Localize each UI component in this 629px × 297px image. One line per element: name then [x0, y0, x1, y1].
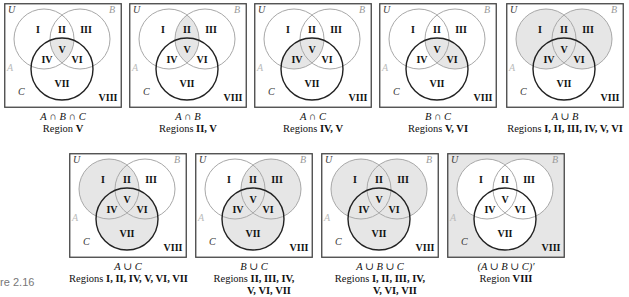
set-a-label: A	[381, 62, 389, 73]
region-label-vii: VII	[556, 78, 571, 89]
region-label-ii: II	[123, 174, 131, 185]
set-b-label: B	[611, 4, 617, 15]
figure-label: ure 2.16	[0, 276, 34, 288]
regions-prefix: Regions	[159, 123, 196, 134]
set-c-label: C	[461, 236, 468, 247]
venn-panel-b-or-c: UBACIIIIIIIVVVIVIIVIIIB ∪ CRegions II, I…	[195, 153, 313, 297]
set-a-label: A	[197, 212, 205, 223]
region-label-viii: VIII	[164, 242, 183, 253]
regions-caption: Regions V, VI	[379, 123, 497, 135]
region-label-iv: IV	[166, 54, 178, 65]
region-label-vii: VII	[179, 78, 194, 89]
region-label-iv: IV	[484, 204, 496, 215]
set-expression: B ∪ C	[195, 261, 313, 273]
region-label-iii: III	[582, 24, 594, 35]
panel-caption: (A ∪ B ∪ C)′Region VIII	[447, 261, 565, 285]
region-label-viii: VIII	[416, 242, 435, 253]
region-label-iv: IV	[106, 204, 118, 215]
universe-label: U	[258, 4, 266, 15]
regions-list: II, V	[196, 123, 217, 134]
venn-diagram: UBACIIIIIIIVVVIVIIVIII	[447, 153, 565, 258]
regions-prefix: Regions	[69, 273, 106, 284]
region-label-i: I	[411, 24, 415, 35]
venn-diagram: UBACIIIIIIIVVVIVIIVIII	[254, 3, 372, 108]
region-label-vii: VII	[304, 78, 319, 89]
region-label-ii: II	[183, 24, 191, 35]
region-label-i: I	[286, 24, 290, 35]
set-c-label: C	[393, 86, 400, 97]
region-label-v: V	[123, 194, 131, 205]
set-b-label: B	[174, 154, 180, 165]
regions-list: II, III, IV,	[251, 273, 295, 284]
universe-label: U	[451, 154, 459, 165]
regions-caption: Regions I, II, III, IV,	[321, 273, 439, 285]
venn-diagram: UBACIIIIIIIVVVIVIIVIII	[506, 3, 624, 108]
set-expression: A ∩ B	[129, 111, 247, 123]
regions-caption: Regions IV, V	[254, 123, 372, 135]
region-label-i: I	[353, 174, 357, 185]
panel-caption: A ∪ CRegions I, II, IV, V, VI, VII	[69, 261, 187, 285]
region-label-i: I	[227, 174, 231, 185]
region-label-vi: VI	[321, 54, 332, 65]
region-label-ii: II	[375, 174, 383, 185]
regions-caption: Regions II, V	[129, 123, 247, 135]
region-label-viii: VIII	[474, 92, 493, 103]
region-label-iv: IV	[291, 54, 303, 65]
set-b-label: B	[109, 4, 115, 15]
set-a-label: A	[508, 62, 516, 73]
set-b-label: B	[359, 4, 365, 15]
region-label-iii: III	[205, 24, 217, 35]
region-label-vi: VI	[446, 54, 457, 65]
region-label-vi: VI	[262, 204, 273, 215]
region-label-iii: III	[271, 174, 283, 185]
set-expression: A ∪ B	[506, 111, 624, 123]
region-label-vi: VI	[514, 204, 525, 215]
set-a-label: A	[131, 62, 139, 73]
regions-caption: Regions I, II, IV, V, VI, VII	[69, 273, 187, 285]
region-label-i: I	[479, 174, 483, 185]
regions-caption: Region VIII	[447, 273, 565, 285]
region-label-vii: VII	[371, 228, 386, 239]
set-a-label: A	[449, 212, 457, 223]
region-label-i: I	[101, 174, 105, 185]
regions-prefix: Regions	[335, 273, 372, 284]
region-label-iii: III	[523, 174, 535, 185]
region-label-iii: III	[330, 24, 342, 35]
set-b-label: B	[234, 4, 240, 15]
venn-diagram: UBACIIIIIIIVVVIVIIVIII	[4, 3, 122, 108]
regions-list: V, VI	[445, 123, 468, 134]
regions-caption: Regions I, II, III, IV, V, VI	[506, 123, 624, 135]
regions-prefix: Regions	[214, 273, 251, 284]
venn-panel-a-or-b: UBACIIIIIIIVVVIVIIVIIIA ∪ BRegions I, II…	[506, 3, 624, 135]
venn-panel-a-and-b-and-c: UBACIIIIIIIVVVIVIIVIIIA ∩ B ∩ CRegion V	[4, 3, 122, 135]
region-label-vii: VII	[245, 228, 260, 239]
universe-label: U	[325, 154, 333, 165]
region-label-iv: IV	[416, 54, 428, 65]
set-expression: A ∪ B ∪ C	[321, 261, 439, 273]
regions-list: I, II, III, IV,	[372, 273, 425, 284]
set-a-label: A	[71, 212, 79, 223]
panel-caption: A ∪ B ∪ CRegions I, II, III, IV,V, VI, V…	[321, 261, 439, 297]
region-label-viii: VIII	[542, 242, 561, 253]
regions-list-continued: V, VI, VII	[321, 285, 439, 297]
region-label-v: V	[375, 194, 383, 205]
regions-caption: Region V	[4, 123, 122, 135]
region-label-iii: III	[145, 174, 157, 185]
set-b-label: B	[426, 154, 432, 165]
region-label-i: I	[161, 24, 165, 35]
region-label-v: V	[58, 44, 66, 55]
region-label-vi: VI	[388, 204, 399, 215]
set-c-label: C	[520, 86, 527, 97]
venn-panel-b-and-c: UBACIIIIIIIVVVIVIIVIIIB ∩ CRegions V, VI	[379, 3, 497, 135]
region-label-vii: VII	[429, 78, 444, 89]
set-a-label: A	[256, 62, 264, 73]
region-label-vii: VII	[119, 228, 134, 239]
set-b-label: B	[300, 154, 306, 165]
regions-prefix: Regions	[408, 123, 445, 134]
universe-label: U	[199, 154, 207, 165]
set-expression: A ∩ C	[254, 111, 372, 123]
region-label-viii: VIII	[290, 242, 309, 253]
region-label-iii: III	[80, 24, 92, 35]
region-label-ii: II	[501, 174, 509, 185]
region-label-viii: VIII	[349, 92, 368, 103]
